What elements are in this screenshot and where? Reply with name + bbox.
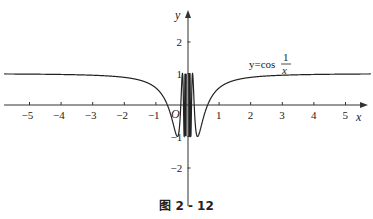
x-axis-label: x xyxy=(355,110,362,124)
x-tick-label: −5 xyxy=(22,109,34,121)
y-axis-label: y xyxy=(174,8,181,22)
x-tick-label: 5 xyxy=(343,109,349,121)
figure-caption: 图 2 - 12 xyxy=(0,196,373,213)
function-label-prefix: y=cos xyxy=(249,58,275,70)
y-axis-arrow-icon xyxy=(185,10,191,18)
y-tick-label: −1 xyxy=(171,131,183,143)
chart: −5−4−3−2−112345 21−1−2 x y O y=cos 1 x xyxy=(0,0,373,219)
x-tick-label: 3 xyxy=(279,109,285,121)
x-tick-label: 4 xyxy=(311,109,317,121)
function-label: y=cos 1 x xyxy=(249,51,291,76)
x-tick-label: 2 xyxy=(248,109,254,121)
x-tick-label: −4 xyxy=(53,109,65,121)
y-tick-label: 1 xyxy=(177,68,183,80)
y-tick-label: 2 xyxy=(177,36,183,48)
x-tick-label: 1 xyxy=(216,109,222,121)
x-tick-label: −2 xyxy=(116,109,128,121)
origin-label: O xyxy=(171,107,180,121)
y-tick-label: −2 xyxy=(171,162,183,174)
function-label-denominator: x xyxy=(281,64,287,76)
x-axis-arrow-icon xyxy=(360,102,368,108)
x-tick-label: −1 xyxy=(148,109,160,121)
x-tick-label: −3 xyxy=(85,109,97,121)
function-label-numerator: 1 xyxy=(283,51,289,63)
